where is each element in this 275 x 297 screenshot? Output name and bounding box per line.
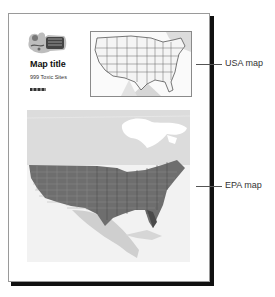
epa-map-callout-label: EPA map	[225, 180, 262, 190]
clipart-logo-icon	[26, 29, 68, 55]
map-title: Map title	[30, 59, 66, 69]
usa-map-frame[interactable]	[90, 31, 192, 97]
map-subtitle: 999 Toxic Sites	[30, 74, 67, 80]
usa-map-callout-label: USA map	[225, 58, 263, 68]
epa-sites-map	[27, 110, 190, 262]
epa-map-callout-line	[196, 186, 222, 187]
epa-map-frame[interactable]	[27, 110, 190, 262]
usa-map-callout-line	[196, 64, 222, 65]
scale-bar-icon	[30, 88, 46, 91]
usa-states-map	[91, 32, 191, 96]
